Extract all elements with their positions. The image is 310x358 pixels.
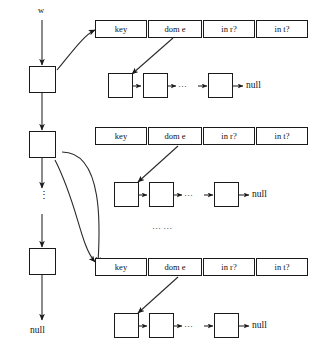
- chain-null-label: null: [252, 321, 267, 331]
- chain-node[interactable]: [149, 313, 174, 338]
- arrow-node2-to-record2: [55, 160, 95, 262]
- record-row[interactable]: key dom e in r? in t?: [95, 127, 308, 145]
- record-cell-key: key: [95, 258, 147, 276]
- arrow-node1-to-record1: [57, 30, 95, 70]
- chain-node[interactable]: [149, 182, 174, 207]
- chain-node[interactable]: [143, 73, 168, 98]
- chain-null-label: null: [246, 81, 261, 91]
- arrow-record1-to-chain1: [132, 38, 173, 74]
- record-cell-int: in t?: [256, 258, 308, 276]
- chain-node[interactable]: [108, 73, 133, 98]
- section-ellipsis: ··· ···: [152, 223, 172, 233]
- record-row[interactable]: key dom e in r? in t?: [95, 258, 308, 276]
- chain-ellipsis: ···: [178, 81, 187, 91]
- spine-node[interactable]: [29, 248, 56, 275]
- chain-ellipsis: ···: [184, 321, 193, 331]
- chain-node[interactable]: [114, 313, 139, 338]
- chain-node[interactable]: [208, 73, 233, 98]
- diagram-canvas: w ⋮ null key dom e in r? in t? ··· null …: [0, 0, 310, 358]
- record-cell-inr: in r?: [203, 258, 255, 276]
- record-cell-int: in t?: [256, 20, 308, 38]
- chain-null-label: null: [252, 190, 267, 200]
- record-row[interactable]: key dom e in r? in t?: [95, 20, 308, 38]
- record-cell-inr: in r?: [203, 20, 255, 38]
- record-cell-dome: dom e: [148, 20, 202, 38]
- spine-null-label: null: [30, 326, 45, 336]
- arrow-record3-to-chain3: [138, 277, 178, 313]
- spine-node[interactable]: [29, 66, 56, 93]
- spine-node[interactable]: [29, 131, 56, 158]
- chain-ellipsis: ···: [184, 190, 193, 200]
- head-pointer-label: w: [38, 6, 44, 15]
- record-cell-int: in t?: [256, 127, 308, 145]
- chain-node[interactable]: [214, 313, 239, 338]
- arrow-record2-to-chain2: [138, 146, 178, 182]
- record-cell-key: key: [95, 127, 147, 145]
- arrow-node2b-to-record3: [62, 152, 99, 263]
- chain-node[interactable]: [214, 182, 239, 207]
- spine-vertical-ellipsis: ⋮: [39, 189, 49, 200]
- connector-layer: [0, 0, 310, 358]
- record-cell-dome: dom e: [148, 258, 202, 276]
- chain-node[interactable]: [114, 182, 139, 207]
- record-cell-inr: in r?: [203, 127, 255, 145]
- record-cell-dome: dom e: [148, 127, 202, 145]
- record-cell-key: key: [95, 20, 147, 38]
